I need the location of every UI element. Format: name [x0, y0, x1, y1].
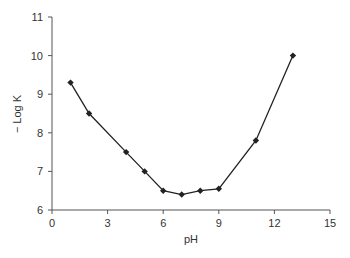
diamond-marker-icon: [290, 52, 296, 58]
diamond-marker-icon: [67, 79, 73, 85]
series-group: [67, 52, 296, 197]
x-tick-label: 12: [268, 217, 280, 229]
x-tick-label: 3: [105, 217, 111, 229]
diamond-marker-icon: [197, 188, 203, 194]
axes: 6789101103691215: [31, 11, 336, 229]
y-tick-label: 10: [31, 50, 43, 62]
y-tick-label: 7: [37, 165, 43, 177]
x-tick-label: 15: [324, 217, 336, 229]
x-tick-label: 9: [216, 217, 222, 229]
x-tick-label: 6: [160, 217, 166, 229]
line-chart: 6789101103691215 pH − Log K: [0, 0, 350, 258]
y-tick-label: 11: [32, 11, 43, 23]
x-axis-title: pH: [184, 233, 198, 245]
data-line: [71, 56, 293, 195]
y-tick-label: 6: [37, 204, 43, 216]
y-tick-label: 9: [37, 88, 43, 100]
x-tick-label: 0: [49, 217, 55, 229]
y-tick-label: 8: [37, 127, 43, 139]
y-axis-title: − Log K: [11, 94, 23, 133]
diamond-marker-icon: [179, 191, 185, 197]
